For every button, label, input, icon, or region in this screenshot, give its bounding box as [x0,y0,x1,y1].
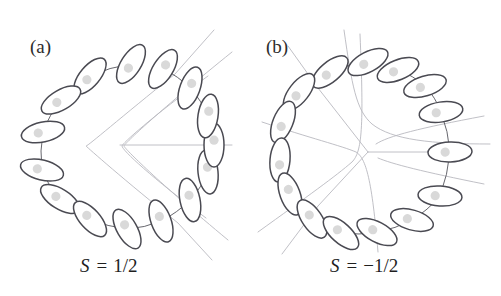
caption-value: 1/2 [113,255,137,276]
figure-background [0,0,501,296]
caption-value: −1/2 [363,255,398,276]
disclination-figure: (a)S=1/2(b)S=−1/2 [0,0,501,296]
caption-equals: = [97,255,108,276]
caption-symbol: S [80,255,90,276]
caption-equals: = [347,255,358,276]
caption-symbol: S [330,255,340,276]
molecule-core-dot [209,136,218,145]
figure-container: (a)S=1/2(b)S=−1/2 [0,0,501,296]
panel-label-a: (a) [30,36,51,58]
panel-label-b: (b) [266,36,288,58]
